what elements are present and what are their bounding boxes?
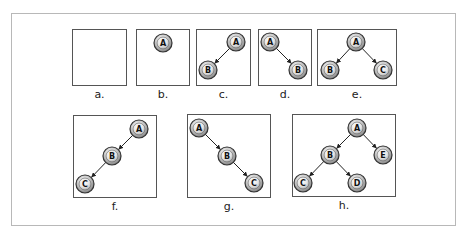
node-label: B [327,66,333,75]
node-label: A [160,39,167,48]
node-label: B [224,152,230,161]
node-e-C: C [374,61,392,79]
edge-g-B-C [233,162,247,176]
node-label: A [196,124,203,133]
node-label: B [295,66,301,75]
node-label: C [300,179,306,188]
node-label: A [267,38,274,47]
graph-layer: AABABABCABCABCABECD [0,0,466,235]
edge-c-A-B [215,48,230,63]
node-h-A: A [348,119,366,137]
node-label: A [354,124,361,133]
node-f-A: A [130,120,148,138]
node-d-B: B [289,61,307,79]
node-c-B: B [199,61,217,79]
node-g-C: C [245,174,263,192]
node-label: A [136,125,143,134]
node-e-A: A [347,33,365,51]
node-c-A: A [227,33,245,51]
node-label: B [109,152,115,161]
node-f-B: B [103,147,121,165]
node-f-C: C [76,175,94,193]
edge-f-B-C [92,162,106,177]
edge-h-B-C [310,161,324,176]
node-label: C [82,180,88,189]
edge-f-A-B [119,135,133,149]
node-label: B [205,66,211,75]
node-label: D [354,179,361,188]
node-label: C [251,179,257,188]
edge-h-A-B [337,134,351,148]
node-d-A: A [261,33,279,51]
node-h-C: C [294,174,312,192]
edge-g-A-B [205,134,220,149]
node-label: E [380,151,385,160]
node-e-B: B [321,61,339,79]
node-label: C [380,66,386,75]
edge-d-A-B [276,48,291,63]
node-label: B [327,151,333,160]
edge-e-A-C [362,48,376,63]
node-h-B: B [321,146,339,164]
node-label: A [353,38,360,47]
node-h-E: E [374,146,392,164]
edge-h-B-D [336,161,350,176]
node-h-D: D [348,174,366,192]
node-g-A: A [190,119,208,137]
edge-h-A-E [363,134,376,148]
node-g-B: B [218,147,236,165]
node-b-A: A [154,34,172,52]
node-label: A [233,38,240,47]
edge-e-A-B [336,49,349,63]
